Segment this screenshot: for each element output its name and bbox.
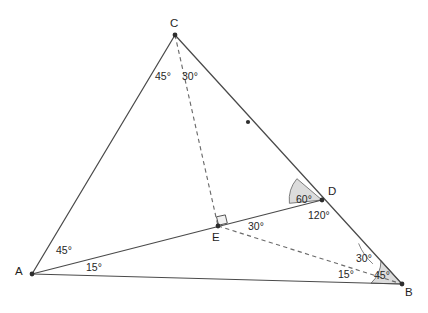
angle-label-D-inner: 60° bbox=[296, 194, 312, 205]
vertex-label-D: D bbox=[328, 186, 336, 198]
angle-label-E-right: 30° bbox=[248, 221, 264, 232]
segment-C-B bbox=[175, 35, 402, 284]
angle-label-C-right: 30° bbox=[182, 71, 198, 82]
vertex-label-E: E bbox=[212, 232, 220, 244]
vertex-dot-B bbox=[400, 282, 405, 287]
vertex-dot-A bbox=[30, 272, 35, 277]
angle-label-B-left: 15° bbox=[338, 269, 354, 280]
geometry-figure: C A B D E 45° 30° 45° 15° 60° 120° 30° 3… bbox=[0, 0, 428, 313]
vertex-label-B: B bbox=[405, 287, 413, 299]
segment-C-E-dashed bbox=[175, 35, 218, 226]
angle-label-A-upper: 45° bbox=[56, 245, 72, 256]
segment-A-C bbox=[32, 35, 175, 274]
angle-label-B-upper: 30° bbox=[356, 253, 372, 264]
vertex-dot-E bbox=[216, 224, 221, 229]
vertex-dot-C bbox=[173, 33, 178, 38]
vertex-label-A: A bbox=[15, 266, 23, 278]
angle-label-B-inner: 45° bbox=[374, 270, 390, 281]
midpoint-tick-CB bbox=[246, 120, 250, 124]
vertex-label-C: C bbox=[170, 18, 178, 30]
angle-label-C-left: 45° bbox=[155, 71, 171, 82]
angle-label-A-lower: 15° bbox=[86, 262, 102, 273]
geometry-canvas bbox=[0, 0, 428, 313]
segment-A-D bbox=[32, 200, 322, 274]
angle-label-D-outer: 120° bbox=[308, 210, 330, 221]
vertex-dot-D bbox=[320, 198, 325, 203]
